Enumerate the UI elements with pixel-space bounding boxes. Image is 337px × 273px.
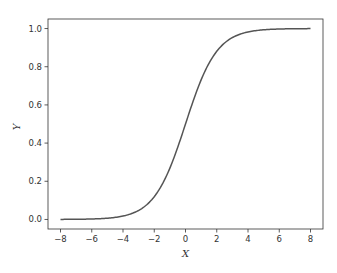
sigmoid-chart: −8−6−4−2024680.00.20.40.60.81.0 X Y xyxy=(0,0,337,273)
y-tick-label: 0.2 xyxy=(28,176,42,186)
x-tick-label: 4 xyxy=(245,234,250,244)
y-tick-label: 0.6 xyxy=(28,100,42,110)
x-tick-label: −8 xyxy=(54,234,67,244)
y-tick-label: 0.4 xyxy=(28,138,42,148)
x-axis-label: X xyxy=(181,248,190,259)
x-tick-label: 0 xyxy=(183,234,188,244)
x-tick-label: −6 xyxy=(85,234,98,244)
y-tick-label: 1.0 xyxy=(28,24,42,34)
x-tick-label: −2 xyxy=(148,234,161,244)
y-axis-label: Y xyxy=(11,122,22,130)
x-tick-label: 6 xyxy=(277,234,282,244)
y-tick-label: 0.8 xyxy=(28,62,42,72)
ticks-layer: −8−6−4−2024680.00.20.40.60.81.0 xyxy=(28,24,313,244)
x-tick-label: 2 xyxy=(214,234,219,244)
series-line-sigmoid xyxy=(61,29,311,220)
x-tick-label: −4 xyxy=(117,234,130,244)
x-tick-label: 8 xyxy=(308,234,313,244)
y-tick-label: 0.0 xyxy=(28,214,42,224)
